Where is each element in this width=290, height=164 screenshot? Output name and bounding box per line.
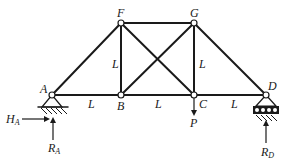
load-arrow-P [191,98,197,116]
member-AF [52,23,121,95]
truss-members [52,23,266,95]
reaction-arrow-RD [263,120,269,143]
dim-label-BC: L [154,97,162,111]
reaction-label-RA: RA [47,141,60,156]
load-label-P: P [189,116,198,130]
node-label-G: G [190,6,199,20]
reaction-arrow-HA [22,116,50,122]
roller-support-D [253,95,279,121]
truss-diagram: A B C D F G L L L L L P HA RA RD [0,0,290,164]
node-label-C: C [199,97,208,111]
reaction-label-HA: HA [5,112,20,127]
dim-label-CG: L [198,57,206,71]
node-label-F: F [116,6,125,20]
joint-F [118,20,124,26]
node-label-B: B [117,99,125,113]
dim-label-BF: L [111,57,119,71]
dim-label-CD: L [230,97,238,111]
node-label-A: A [39,82,48,96]
joint-G [191,20,197,26]
node-label-D: D [267,79,277,93]
dim-label-AB: L [87,97,95,111]
joint-B [118,92,124,98]
truss-joints [49,20,269,98]
joint-C [191,92,197,98]
joint-A [49,92,55,98]
reaction-label-RD: RD [260,145,274,160]
reaction-arrow-RA [50,117,56,140]
